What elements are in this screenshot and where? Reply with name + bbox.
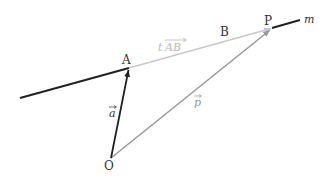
svg-text:t: t (158, 41, 163, 54)
label-t-ab: t AB (158, 38, 187, 54)
point-label-p: P (264, 14, 272, 28)
svg-text:p: p (194, 96, 201, 109)
point-label-a: A (121, 53, 131, 67)
point-label-b: B (220, 25, 229, 39)
diagram-canvas: A B P O m t AB a p (0, 0, 325, 180)
line-label-m: m (304, 13, 314, 26)
svg-text:AB: AB (164, 41, 181, 54)
label-vec-p: p (194, 95, 202, 110)
line-m-right-segment (272, 20, 300, 28)
svg-text:a: a (109, 107, 116, 120)
line-m-left-segment (20, 68, 129, 98)
point-label-o: O (104, 159, 114, 173)
label-vec-a: a (109, 106, 117, 121)
vector-p (111, 30, 270, 158)
vector-line-diagram: A B P O m t AB a p (0, 0, 325, 180)
vector-tab (129, 29, 271, 69)
